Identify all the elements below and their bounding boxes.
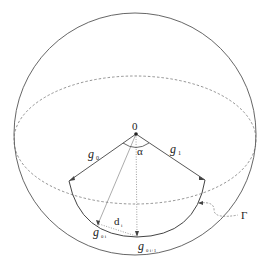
g1-sub: 1: [178, 150, 181, 156]
g-theta-i-label: g: [93, 225, 99, 239]
curve-gamma: [69, 180, 205, 237]
g0-label: g: [88, 147, 94, 161]
arrowhead-g0: [69, 176, 75, 181]
g-theta-i1-label: g: [138, 239, 144, 253]
origin-point: [134, 132, 138, 136]
origin-label: 0: [132, 120, 138, 132]
g-theta-i-sub: θ i: [101, 234, 107, 239]
di-label: d: [114, 215, 120, 227]
ray-g1: [136, 134, 205, 180]
g0-sub: 0: [96, 155, 99, 161]
g-theta-i1-sub: θ i+1: [146, 248, 157, 253]
sphere-geodesic-diagram: 0 α g 0 g 1 g θ i d i g θ i+1 Γ: [0, 0, 268, 269]
di-sub: i: [121, 223, 123, 228]
arrowhead-theta-i1: [135, 231, 139, 237]
equator-dashed: [14, 76, 256, 204]
gamma-pointer: [199, 203, 238, 217]
g1-label: g: [170, 142, 176, 156]
angle-label: α: [137, 145, 143, 157]
gamma-label: Γ: [241, 209, 247, 221]
